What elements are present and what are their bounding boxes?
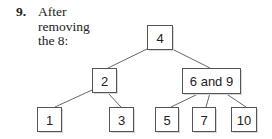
tree-node: 10 [232, 108, 259, 134]
tree-node: 6 and 9 [183, 69, 243, 96]
tree-node: 2 [93, 69, 119, 95]
tree-edge [206, 93, 210, 107]
tree-edge [171, 93, 200, 107]
tree-edge [107, 92, 121, 107]
tree-node: 7 [193, 108, 218, 134]
node-label: 1 [46, 113, 53, 128]
node-label: 2 [101, 74, 108, 89]
tree-edge [225, 93, 246, 107]
tree-edge [172, 49, 210, 68]
tree-edge [55, 90, 92, 107]
node-label: 4 [156, 31, 163, 46]
node-label: 5 [163, 113, 170, 128]
tree-node: 3 [110, 108, 136, 134]
tree-edge [108, 49, 147, 68]
tree-node: 5 [156, 108, 181, 134]
node-label: 3 [118, 113, 125, 128]
tree-node: 1 [38, 108, 64, 134]
tree-node: 4 [148, 26, 175, 52]
node-label: 7 [200, 113, 207, 128]
node-label: 6 and 9 [190, 74, 233, 89]
tree-nodes: 426 and 9135710 [38, 26, 259, 134]
node-label: 10 [237, 113, 251, 128]
tree-diagram: 426 and 9135710 [0, 0, 272, 139]
